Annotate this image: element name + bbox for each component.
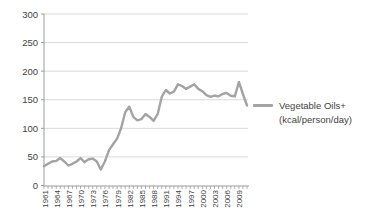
x-tick-label: 1961 [41, 189, 50, 207]
x-tick-label: 1976 [101, 189, 110, 207]
legend-series-unit: (kcal/person/day) [279, 113, 352, 127]
x-tick-label: 1970 [77, 189, 86, 207]
y-tick-label: 250 [22, 37, 38, 48]
y-tick-label: 100 [22, 123, 38, 134]
x-tick-label: 1982 [126, 189, 135, 207]
y-tick-label: 150 [22, 94, 38, 105]
data-line-vegetable-oils [44, 82, 247, 170]
x-tick-label: 1973 [89, 189, 98, 207]
x-tick-label: 2003 [211, 189, 220, 207]
chart-screenshot: 0501001502002503001961196419671970197319… [0, 0, 368, 224]
y-tick-label: 200 [22, 66, 38, 77]
x-tick-label: 1994 [174, 189, 183, 207]
legend-line-sample-icon [253, 104, 273, 107]
x-tick-label: 1979 [114, 189, 123, 207]
x-tick-label: 1988 [150, 189, 159, 207]
y-tick-label: 300 [22, 9, 38, 20]
x-tick-label: 1991 [162, 189, 171, 207]
x-tick-label: 2006 [223, 189, 232, 207]
legend: Vegetable Oils+ (kcal/person/day) [253, 99, 352, 127]
x-tick-label: 1985 [138, 189, 147, 207]
y-tick-label: 50 [27, 151, 38, 162]
x-tick-label: 2009 [235, 189, 244, 207]
x-tick-label: 1967 [65, 189, 74, 207]
x-tick-label: 1964 [53, 189, 62, 207]
x-tick-label: 1997 [187, 189, 196, 207]
y-tick-label: 0 [33, 180, 38, 191]
legend-series-name: Vegetable Oils+ [279, 99, 352, 113]
x-tick-label: 2000 [199, 189, 208, 207]
